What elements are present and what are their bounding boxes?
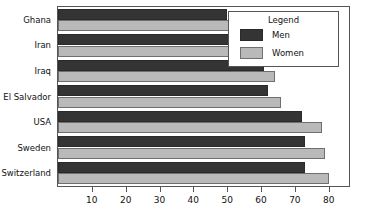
x-axis-tick-20 xyxy=(126,187,127,192)
bar-el-salvador-women xyxy=(58,97,281,108)
bar-usa-men xyxy=(58,111,302,122)
x-axis-tick-label-50: 50 xyxy=(221,195,232,206)
x-axis-tick-label-60: 60 xyxy=(255,195,266,206)
x-axis-tick-80 xyxy=(329,187,330,192)
x-axis-tick-label-70: 70 xyxy=(289,195,300,206)
legend-entry-women: Women xyxy=(240,47,304,59)
bar-sweden-women xyxy=(58,148,325,159)
bar-iran-men xyxy=(58,34,251,45)
bar-el-salvador-men xyxy=(58,85,268,96)
x-axis-tick-40 xyxy=(193,187,194,192)
legend-label-men: Men xyxy=(272,30,290,40)
x-axis-tick-label-10: 10 xyxy=(86,195,97,206)
bar-switzerland-women xyxy=(58,173,329,184)
x-axis-tick-label-30: 30 xyxy=(154,195,165,206)
bar-ghana-women xyxy=(58,20,241,31)
x-axis-tick-label-40: 40 xyxy=(188,195,199,206)
legend-label-women: Women xyxy=(272,48,304,58)
x-axis-tick-label-80: 80 xyxy=(323,195,334,206)
bar-ghana-men xyxy=(58,9,227,20)
x-axis xyxy=(57,187,350,195)
x-axis-tick-70 xyxy=(295,187,296,192)
x-axis-tick-30 xyxy=(160,187,161,192)
bar-chart: GhanaIranIraqEl SalvadorUSASwedenSwitzer… xyxy=(0,0,368,222)
x-axis-tick-10 xyxy=(92,187,93,192)
y-axis-label-el-salvador: El Salvador xyxy=(3,92,51,102)
bar-usa-women xyxy=(58,122,322,133)
y-axis-label-usa: USA xyxy=(33,117,51,127)
y-axis-label-iraq: Iraq xyxy=(34,66,51,76)
legend-swatch-men-icon xyxy=(240,29,263,41)
y-axis-label-sweden: Sweden xyxy=(17,143,51,153)
y-axis-label-iran: Iran xyxy=(34,40,51,50)
y-axis-label-ghana: Ghana xyxy=(23,15,51,25)
x-axis-tick-60 xyxy=(261,187,262,192)
y-axis-labels: GhanaIranIraqEl SalvadorUSASwedenSwitzer… xyxy=(0,7,54,186)
bar-switzerland-men xyxy=(58,162,305,173)
x-axis-tick-label-20: 20 xyxy=(120,195,131,206)
bar-iran-women xyxy=(58,46,251,57)
x-axis-tick-labels: 1020304050607080 xyxy=(57,195,350,209)
y-axis-label-switzerland: Switzerland xyxy=(1,168,51,178)
legend-entry-men: Men xyxy=(240,29,290,41)
legend-swatch-women-icon xyxy=(240,47,263,59)
x-axis-tick-50 xyxy=(227,187,228,192)
bar-iraq-women xyxy=(58,71,275,82)
legend-title: Legend xyxy=(229,15,338,25)
bar-sweden-men xyxy=(58,136,305,147)
legend: Legend Men Women xyxy=(228,11,339,67)
